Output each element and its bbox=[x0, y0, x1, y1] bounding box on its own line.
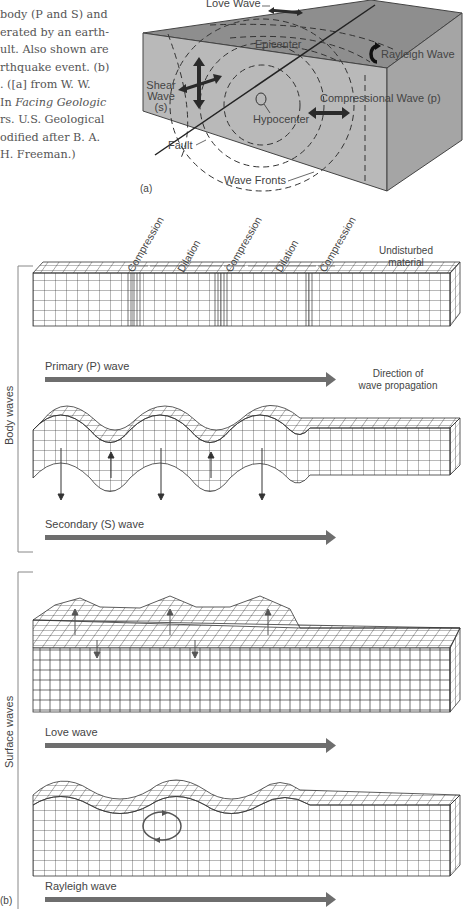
surface-waves-bracket bbox=[18, 572, 33, 909]
label-secondary-wave: Secondary (S) wave bbox=[45, 518, 144, 530]
label-direction-of-propagation: Direction of wave propagation bbox=[343, 368, 453, 392]
panel-b-label: (b) bbox=[0, 895, 12, 906]
label-love-wave-b: Love wave bbox=[45, 726, 98, 738]
body-waves-bracket bbox=[18, 266, 33, 552]
love-wave-arrow-icon bbox=[45, 743, 328, 748]
p-wave-block bbox=[33, 262, 460, 326]
s-wave-block bbox=[33, 405, 460, 500]
love-wave-block bbox=[33, 596, 460, 712]
group-label-surface-waves: Surface waves bbox=[3, 696, 15, 768]
panel-b-wave-diagrams bbox=[0, 0, 471, 909]
label-rayleigh-wave-b: Rayleigh wave bbox=[45, 880, 117, 892]
s-wave-arrow-icon bbox=[45, 535, 328, 540]
p-wave-arrow-icon bbox=[45, 377, 328, 382]
rayleigh-wave-arrow-icon bbox=[45, 897, 328, 902]
rayleigh-wave-block bbox=[33, 780, 460, 876]
group-label-body-waves: Body waves bbox=[3, 386, 15, 445]
label-primary-wave: Primary (P) wave bbox=[45, 360, 129, 372]
